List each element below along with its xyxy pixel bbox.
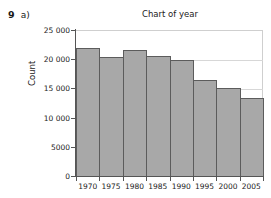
bar-2005 bbox=[240, 98, 264, 176]
x-tick-label: 2005 bbox=[231, 182, 271, 191]
bar-1975 bbox=[99, 57, 123, 176]
bar-1990 bbox=[170, 60, 194, 176]
x-tick bbox=[216, 177, 217, 181]
chart-title: Chart of year bbox=[76, 9, 264, 19]
x-tick bbox=[123, 177, 124, 181]
bar-chart-figure: Chart of year Count 0500010 00015 00020 … bbox=[0, 0, 271, 198]
bar-2000 bbox=[216, 88, 240, 176]
x-tick bbox=[76, 177, 77, 181]
y-tick-label: 0 bbox=[34, 172, 70, 181]
y-axis-label: Count bbox=[27, 61, 37, 86]
y-tick bbox=[71, 147, 75, 148]
y-tick-label: 25 000 bbox=[34, 26, 70, 35]
bar-1995 bbox=[193, 80, 217, 176]
y-tick-label: 10 000 bbox=[34, 113, 70, 122]
plot-area bbox=[76, 30, 263, 176]
y-axis-line bbox=[75, 29, 76, 177]
x-tick bbox=[99, 177, 100, 181]
x-tick bbox=[170, 177, 171, 181]
x-tick bbox=[263, 177, 264, 181]
y-tick-label: 15 000 bbox=[34, 84, 70, 93]
y-tick-label: 5000 bbox=[34, 142, 70, 151]
bar-1985 bbox=[146, 56, 170, 176]
bar-series bbox=[76, 30, 263, 176]
x-tick bbox=[240, 177, 241, 181]
x-tick bbox=[193, 177, 194, 181]
y-tick bbox=[71, 118, 75, 119]
y-tick bbox=[71, 88, 75, 89]
y-tick-label: 20 000 bbox=[34, 55, 70, 64]
y-tick bbox=[71, 30, 75, 31]
y-tick bbox=[71, 59, 75, 60]
bar-1970 bbox=[76, 48, 100, 176]
bar-1980 bbox=[123, 50, 147, 176]
x-tick bbox=[146, 177, 147, 181]
